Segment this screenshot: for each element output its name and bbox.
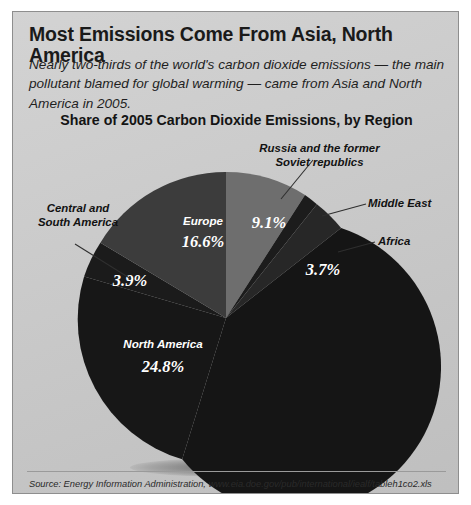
leader-line-middle-east bbox=[322, 204, 366, 216]
pie-value-north-america: 24.8% bbox=[141, 357, 185, 376]
callout-middle-east-label: Middle East bbox=[368, 197, 431, 209]
pie-chart: 9.1% 3.7% Europe 16.6% 3.9% North Americ… bbox=[13, 12, 459, 494]
source-note: Source: Energy Information Administratio… bbox=[29, 479, 454, 489]
callout-central-south-america: Central and South America bbox=[18, 201, 138, 230]
pie-value-central-south-america: 3.9% bbox=[112, 271, 147, 290]
pie-value-europe: 16.6% bbox=[182, 232, 225, 251]
pie-label-europe: Europe bbox=[183, 214, 223, 227]
pie-label-north-america: North America bbox=[123, 337, 203, 350]
callout-csa-line2: South America bbox=[38, 216, 118, 228]
callout-russia-line1: Russia and the former bbox=[259, 142, 379, 154]
pie-value-russia: 9.1% bbox=[252, 213, 286, 232]
callout-russia-line2: Soviet republics bbox=[276, 156, 364, 168]
infographic-panel: Most Emissions Come From Asia, North Ame… bbox=[12, 11, 459, 494]
callout-russia: Russia and the former Soviet republics bbox=[232, 141, 407, 170]
source-divider bbox=[27, 471, 446, 472]
callout-africa: Africa bbox=[378, 234, 410, 248]
pie-svg: 9.1% 3.7% Europe 16.6% 3.9% North Americ… bbox=[13, 12, 459, 494]
callout-middle-east: Middle East bbox=[368, 196, 431, 210]
pie-value-africa: 3.7% bbox=[305, 260, 340, 279]
callout-africa-label: Africa bbox=[378, 235, 410, 247]
callout-csa-line1: Central and bbox=[47, 202, 110, 214]
